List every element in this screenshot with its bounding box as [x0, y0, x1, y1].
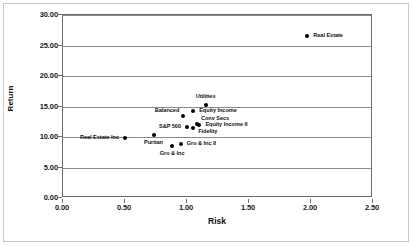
data-point-marker[interactable] — [181, 114, 185, 118]
data-point-label: Puritan — [144, 140, 163, 146]
x-axis-title: Risk — [62, 216, 372, 226]
data-point-label: Utilities — [196, 94, 216, 100]
data-point-label: Balanced — [155, 108, 179, 114]
data-point-label: Real Estate — [313, 33, 343, 39]
data-point-label: Gro & Inc II — [187, 141, 216, 147]
data-point-label: Fidelity — [198, 129, 217, 135]
y-axis-title: Return — [6, 71, 15, 127]
data-point-marker[interactable] — [123, 136, 127, 140]
y-axis-tick-label: 10.00 — [40, 132, 58, 141]
gridline — [63, 76, 371, 77]
data-point-label: S&P 500 — [159, 124, 181, 130]
risk-return-scatter-chart: 0.005.0010.0015.0020.0025.0030.00 Real E… — [0, 0, 413, 246]
y-axis-tick-label: 15.00 — [40, 101, 58, 110]
y-axis-tick-label: 25.00 — [40, 40, 58, 49]
x-axis-tick-label: 1.50 — [241, 203, 255, 212]
y-axis-tick-mark — [57, 197, 62, 198]
data-point-label: Gro & Inc — [160, 151, 185, 157]
y-axis-tick-label: 30.00 — [40, 10, 58, 19]
gridline — [63, 46, 371, 47]
data-point-marker[interactable] — [179, 142, 183, 146]
data-point-marker[interactable] — [185, 125, 189, 129]
x-axis-tick-labels: 0.000.501.001.502.002.50 — [62, 199, 372, 217]
plot-area: Real EstateUtilitiesEquity IncomeBalance… — [62, 14, 372, 197]
y-axis-tick-label: 20.00 — [40, 71, 58, 80]
data-point-label: Equity Income — [199, 109, 237, 115]
data-point-marker[interactable] — [204, 103, 208, 107]
gridline — [63, 168, 371, 169]
y-axis-tick-label: 5.00 — [44, 162, 58, 171]
data-point-marker[interactable] — [152, 133, 156, 137]
data-point-label: Real Estate Inc — [80, 135, 119, 141]
y-axis-tick-label: 0.00 — [44, 193, 58, 202]
x-axis-tick-label: 0.50 — [117, 203, 131, 212]
x-axis-tick-label: 0.00 — [55, 203, 69, 212]
x-axis-tick-label: 2.00 — [303, 203, 317, 212]
data-point-label: Equity Income II — [205, 123, 247, 129]
gridlines — [63, 15, 371, 196]
x-axis-tick-label: 2.50 — [365, 203, 379, 212]
x-axis-tick-label: 1.00 — [179, 203, 193, 212]
gridline — [63, 15, 371, 16]
